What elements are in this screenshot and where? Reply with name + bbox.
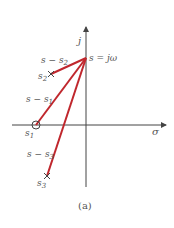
s-plane-diagram: j σ s = jω s − s2 s2 s − s1 s1 s − s3 s3… (0, 0, 174, 228)
vector-s-minus-s1 (36, 58, 86, 125)
zero-label-s1: s1 (25, 128, 34, 140)
vector-label-s2: s − s2 (41, 55, 69, 67)
vector-label-s1: s − s1 (26, 94, 53, 106)
point-label: s = jω (89, 53, 118, 63)
real-axis-label: σ (152, 126, 160, 137)
vector-label-s3: s − s3 (27, 149, 55, 161)
imag-axis-label: j (76, 35, 81, 46)
figure-caption: (a) (78, 200, 92, 211)
pole-label-s2: s2 (38, 71, 48, 83)
pole-label-s3: s3 (37, 178, 47, 190)
